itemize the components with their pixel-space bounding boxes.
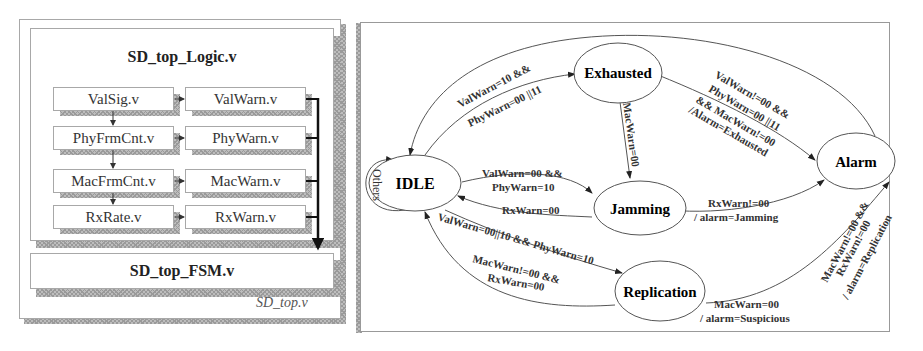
jamming-idle-label: RxWarn=00	[502, 204, 560, 216]
state-replication-label: Replication	[623, 284, 697, 300]
state-alarm-label: Alarm	[835, 154, 877, 170]
idle-self-loop-label: Others	[370, 169, 384, 201]
state-replication: Replication	[615, 261, 705, 321]
state-exhausted-label: Exhausted	[584, 65, 652, 81]
replication-suspicious-label-1: MacWarn=00	[714, 298, 779, 310]
state-jamming: Jamming	[594, 181, 686, 235]
state-exhausted: Exhausted	[574, 43, 662, 103]
idle-replication-label: ValWarn=00||10 && PhyWarn=10	[436, 210, 595, 266]
state-alarm: Alarm	[817, 133, 895, 189]
jamming-alarm-label-1: RxWarn!=00	[708, 197, 770, 209]
state-idle-label: IDLE	[395, 175, 434, 192]
state-diagram: IDLE Exhausted Jamming Replication Alarm…	[0, 0, 923, 351]
idle-jamming-label-2: PhyWarn=10	[492, 181, 555, 193]
jamming-alarm-label-2: / alarm=Jamming	[693, 211, 779, 223]
state-jamming-label: Jamming	[610, 201, 671, 217]
idle-jamming-label-1: ValWarn=00 &&	[482, 167, 563, 179]
replication-suspicious-label-2: / alarm=Suspicious	[699, 312, 790, 324]
